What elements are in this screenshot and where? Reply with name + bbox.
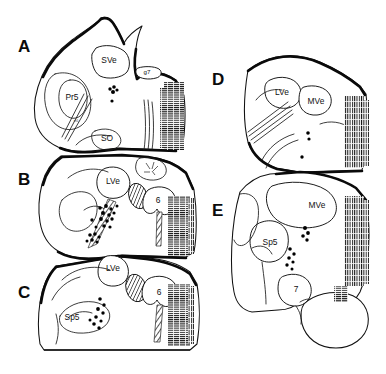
panel-letter-D: D	[212, 70, 224, 89]
panel-B-striation-band	[168, 196, 190, 256]
label-MVe-D: MVe	[308, 96, 325, 106]
label-m5-A: m5	[74, 119, 79, 123]
label-Pr5-A: Pr5	[65, 92, 78, 102]
figure-root: A SVe g7 Pr5 SO m5	[0, 0, 386, 374]
figure-canvas: A SVe g7 Pr5 SO m5	[0, 0, 386, 374]
panel-D-striation-band	[344, 96, 364, 168]
panel-E: E MVe Sp5 7	[212, 172, 369, 348]
panel-A: A SVe g7 Pr5 SO m5	[18, 17, 185, 152]
panel-letter-C: C	[18, 283, 30, 302]
panel-E-striation-band-2	[364, 200, 369, 284]
panel-C-striation-band-2	[188, 286, 194, 344]
label-LVe-C: LVe	[106, 263, 120, 273]
label-6-B: 6	[156, 195, 161, 205]
panel-A-striation-band-2	[160, 88, 166, 148]
label-SVe-A: SVe	[101, 55, 117, 65]
label-MVe-E: MVe	[309, 200, 326, 210]
panel-E-ventral-lobe-crease	[296, 306, 301, 324]
label-SO-A: SO	[101, 133, 114, 143]
panel-letter-A: A	[18, 37, 30, 56]
label-LVe-D: LVe	[275, 87, 289, 97]
panel-D: D LVe MVe	[212, 56, 369, 173]
panel-E-striation-band-3	[334, 286, 348, 302]
panel-A-striation-band	[164, 82, 184, 150]
panel-E-striation-band	[344, 196, 364, 286]
panel-C-striation-band	[168, 284, 190, 346]
label-g7-A: g7	[144, 68, 151, 75]
label-LVe-B: LVe	[106, 176, 120, 186]
panel-B-striation-band-2	[188, 198, 194, 254]
panel-C: C LVe 6 Sp5	[18, 256, 199, 350]
label-6-C: 6	[157, 287, 162, 297]
panel-B: B LVe 6	[18, 155, 196, 259]
panel-D-striation-band-2	[364, 100, 369, 166]
label-Sp5-E: Sp5	[263, 237, 278, 247]
panel-letter-B: B	[18, 170, 30, 189]
panel-B-nucleus-6-stalk	[156, 212, 162, 246]
panel-letter-E: E	[212, 201, 223, 220]
label-7-E: 7	[294, 284, 299, 294]
label-Sp5-C: Sp5	[65, 312, 80, 322]
